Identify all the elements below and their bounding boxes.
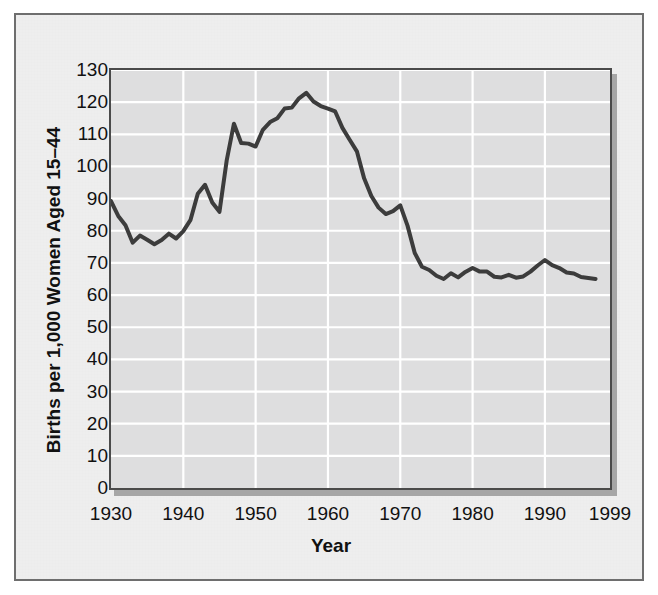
y-tick-label: 70 xyxy=(58,253,108,273)
y-axis-tick-labels: 1301201101009080706050403020100 xyxy=(58,69,108,501)
x-tick-label: 1990 xyxy=(510,502,580,526)
y-tick-label: 100 xyxy=(58,156,108,176)
x-tick-label: 1999 xyxy=(575,502,645,526)
chart-svg xyxy=(111,70,610,488)
y-tick-label: 110 xyxy=(58,124,108,144)
x-tick-label: 1980 xyxy=(438,502,508,526)
x-axis-tick-labels: 19301940195019601970198019901999 xyxy=(16,502,646,530)
x-tick-label: 1930 xyxy=(76,502,146,526)
y-tick-label: 20 xyxy=(58,414,108,434)
x-tick-label: 1950 xyxy=(221,502,291,526)
y-tick-label: 40 xyxy=(58,349,108,369)
y-tick-label: 130 xyxy=(58,60,108,80)
y-tick-label: 50 xyxy=(58,317,108,337)
x-tick-label: 1970 xyxy=(365,502,435,526)
x-axis-title: Year xyxy=(16,535,646,557)
x-tick-label: 1960 xyxy=(293,502,363,526)
y-tick-label: 60 xyxy=(58,285,108,305)
figure-frame: Births per 1,000 Women Aged 15–44 130120… xyxy=(14,13,644,581)
x-tick-label: 1940 xyxy=(148,502,218,526)
y-tick-label: 90 xyxy=(58,189,108,209)
y-tick-label: 120 xyxy=(58,92,108,112)
y-tick-label: 10 xyxy=(58,446,108,466)
y-tick-label: 80 xyxy=(58,221,108,241)
y-tick-label: 0 xyxy=(58,478,108,498)
y-tick-label: 30 xyxy=(58,382,108,402)
plot-area xyxy=(109,68,612,490)
